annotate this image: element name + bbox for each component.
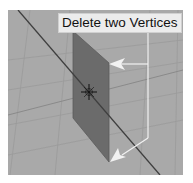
arrow-lower-vertex-icon xyxy=(110,148,126,162)
3d-viewport[interactable] xyxy=(8,10,183,175)
annotation-connector xyxy=(120,31,148,155)
viewport-scene xyxy=(8,10,183,175)
annotation-label: Delete two Vertices xyxy=(58,13,182,33)
plane-mesh[interactable] xyxy=(73,31,109,162)
